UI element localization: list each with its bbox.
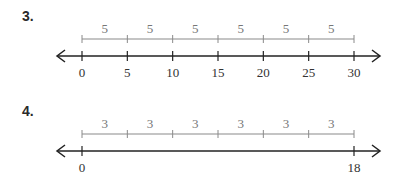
problem-4-segment-label: 3 [328,116,335,131]
number-lines: 555555051015202530333333018 [0,0,408,189]
problem-4-segment-label: 3 [192,116,199,131]
problem-3-tick-label: 0 [79,65,86,80]
problem-4-tick-label: 18 [348,160,361,175]
problem-4-segment-label: 3 [237,116,244,131]
problem-4-segment-label: 3 [147,116,154,131]
problem-3-tick-label: 15 [212,65,225,80]
problem-3-tick-label: 25 [302,65,315,80]
problem-3-tick-label: 5 [124,65,131,80]
problem-3-segment-label: 5 [192,21,199,36]
problem-4-segment-label: 3 [101,116,108,131]
problem-4-tick-label: 0 [79,160,86,175]
problem-3-tick-label: 20 [257,65,270,80]
problem-3-segment-label: 5 [283,21,290,36]
problem-3-tick-label: 30 [348,65,361,80]
problem-3-segment-label: 5 [101,21,108,36]
problem-3-segment-label: 5 [328,21,335,36]
problem-4-segment-label: 3 [283,116,290,131]
problem-3-segment-label: 5 [237,21,244,36]
problem-3-segment-label: 5 [147,21,154,36]
problem-3-tick-label: 10 [166,65,179,80]
